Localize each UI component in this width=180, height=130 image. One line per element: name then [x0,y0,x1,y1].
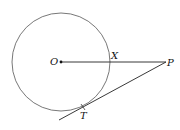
label-x: X [110,50,119,61]
tangent-line-pt [59,62,166,120]
center-point-o [60,61,63,64]
label-o: O [50,56,58,67]
label-t: T [80,110,88,121]
diagram-svg: O X P T [0,0,180,130]
label-p: P [166,57,174,68]
geometry-diagram: O X P T [0,0,180,130]
